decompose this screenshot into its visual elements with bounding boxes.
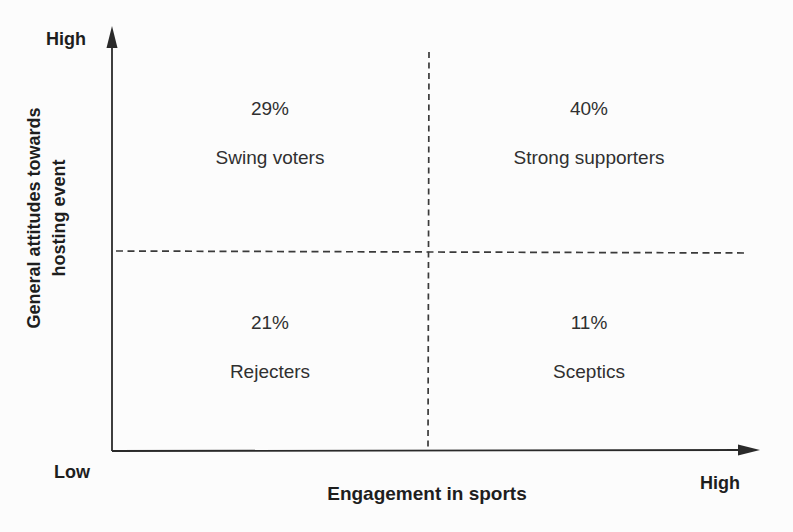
x-axis-arrowhead-icon xyxy=(738,445,760,456)
quadrant-label: Sceptics xyxy=(428,359,750,385)
quadrant-label: Swing voters xyxy=(112,145,428,171)
quadrant-top-left: 29% Swing voters xyxy=(112,96,428,171)
quadrant-value: 29% xyxy=(112,96,428,122)
quadrant-value: 40% xyxy=(428,96,750,122)
y-axis-high-label: High xyxy=(46,29,86,50)
horizontal-divider-dashed-line xyxy=(116,251,748,253)
quadrant-value: 21% xyxy=(112,310,428,336)
x-axis-high-label: High xyxy=(700,473,740,494)
quadrant-bottom-left: 21% Rejecters xyxy=(112,310,428,385)
y-axis-arrowhead-icon xyxy=(107,26,118,48)
y-axis-title: General attitudes towards hosting event xyxy=(22,107,72,328)
x-axis-line xyxy=(112,450,744,451)
origin-low-label: Low xyxy=(54,462,90,483)
y-axis-title-line1: General attitudes towards xyxy=(22,107,47,328)
axes-canvas xyxy=(0,0,793,532)
x-axis-title: Engagement in sports xyxy=(317,483,537,505)
y-axis-title-line2: hosting event xyxy=(47,107,72,328)
quadrant-label: Strong supporters xyxy=(428,145,750,171)
quadrant-chart-figure: High Low High General attitudes towards … xyxy=(0,0,793,532)
quadrant-top-right: 40% Strong supporters xyxy=(428,96,750,171)
quadrant-value: 11% xyxy=(428,310,750,336)
quadrant-bottom-right: 11% Sceptics xyxy=(428,310,750,385)
quadrant-label: Rejecters xyxy=(112,359,428,385)
